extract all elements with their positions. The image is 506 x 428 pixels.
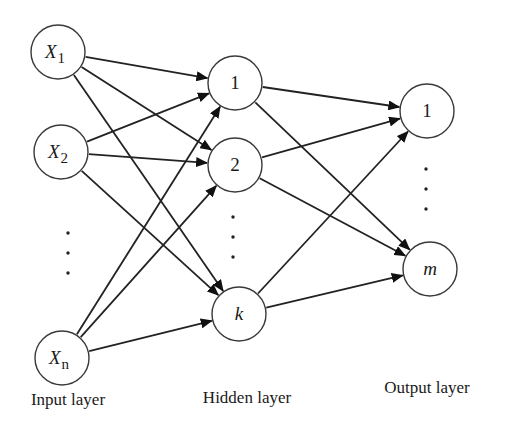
- output-ellipsis-dot: [424, 187, 427, 190]
- edge-xn-to-h2: [81, 186, 217, 337]
- neurons: X1X2Xn12k1m: [31, 25, 457, 385]
- hidden-ellipsis-dot: [231, 215, 234, 218]
- edge-x2-to-hk: [82, 171, 219, 295]
- neural-network-diagram: X1X2Xn12k1m Input layerHidden layerOutpu…: [0, 0, 506, 428]
- edge-h2-to-o1: [262, 119, 400, 158]
- node-label: m: [423, 258, 437, 279]
- output-ellipsis-dot: [424, 207, 427, 210]
- input-layer-label: Input layer: [31, 390, 105, 409]
- edge-h1-to-o1: [263, 87, 400, 107]
- node-label: 1: [230, 72, 240, 93]
- input-ellipsis-dot: [66, 251, 69, 254]
- node-h1: 1: [208, 56, 262, 110]
- hidden-layer-label: Hidden layer: [203, 388, 292, 407]
- node-label: 2: [230, 154, 240, 175]
- edge-h2-to-om: [260, 178, 406, 256]
- output-ellipsis-dot: [424, 167, 427, 170]
- input-ellipsis-dot: [66, 231, 69, 234]
- node-label: 1: [422, 100, 432, 121]
- edge-h1-to-om: [255, 102, 409, 249]
- edge-hk-to-o1: [258, 132, 408, 294]
- node-label: k: [235, 303, 244, 324]
- node-x2: X2: [34, 125, 88, 179]
- edge-hk-to-om: [266, 275, 402, 307]
- edge-x1-to-h1: [86, 57, 208, 78]
- node-h2: 2: [208, 138, 262, 192]
- edge-x2-to-h1: [87, 93, 209, 141]
- node-o1: 1: [400, 84, 454, 138]
- edge-x1-to-h2: [82, 67, 212, 150]
- node-hk: k: [212, 287, 266, 341]
- node-xn: Xn: [35, 331, 89, 385]
- hidden-ellipsis-dot: [231, 255, 234, 258]
- edge-xn-to-hk: [89, 321, 212, 351]
- node-om: m: [403, 242, 457, 296]
- input-ellipsis-dot: [66, 271, 69, 274]
- node-x1: X1: [31, 25, 85, 79]
- layer-labels: Input layerHidden layerOutput layer: [31, 378, 470, 409]
- edge-xn-to-h1: [77, 107, 220, 335]
- hidden-ellipsis-dot: [231, 235, 234, 238]
- output-layer-label: Output layer: [384, 378, 470, 397]
